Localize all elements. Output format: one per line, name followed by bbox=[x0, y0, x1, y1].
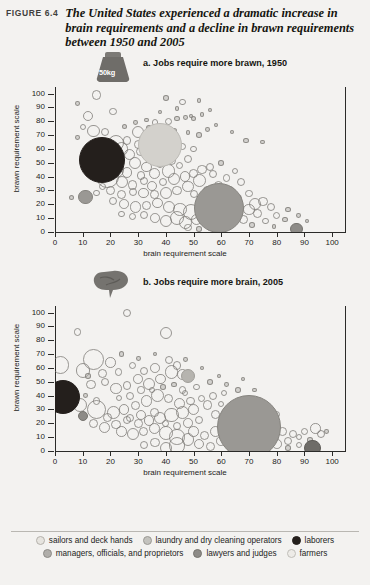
data-bubble bbox=[149, 168, 160, 179]
data-bubble bbox=[209, 170, 217, 178]
data-bubble bbox=[153, 352, 157, 356]
x-tick-label: 70 bbox=[238, 239, 260, 247]
x-tick-mark bbox=[110, 451, 111, 456]
data-bubble bbox=[245, 190, 252, 197]
data-bubble bbox=[98, 369, 107, 378]
data-bubble bbox=[55, 356, 69, 374]
data-bubble bbox=[160, 327, 172, 339]
weight-shape-icon bbox=[93, 50, 133, 82]
data-bubble bbox=[232, 168, 238, 174]
legend-divider bbox=[11, 531, 359, 532]
panel-b-title: b. Jobs require more brain, 2005 bbox=[143, 277, 283, 287]
circle-marker-icon bbox=[43, 549, 52, 558]
data-bubble bbox=[160, 215, 172, 227]
data-bubble bbox=[237, 178, 245, 186]
data-bubble bbox=[119, 351, 125, 357]
data-bubble bbox=[144, 118, 148, 122]
data-bubble bbox=[106, 186, 115, 195]
x-tick-mark bbox=[194, 451, 195, 456]
data-bubble bbox=[214, 123, 218, 127]
data-bubble bbox=[129, 188, 137, 196]
data-bubble bbox=[218, 160, 224, 166]
circle-marker-icon bbox=[287, 549, 296, 558]
highlight-bubble-managers-small bbox=[78, 190, 92, 204]
x-tick-label: 70 bbox=[238, 458, 260, 466]
x-tick-mark bbox=[110, 232, 111, 237]
data-bubble bbox=[182, 390, 188, 396]
data-bubble bbox=[282, 217, 288, 223]
data-bubble bbox=[137, 386, 144, 393]
data-bubble bbox=[193, 174, 206, 187]
y-tick-label: 80 bbox=[17, 336, 45, 344]
x-tick-mark bbox=[249, 232, 250, 237]
data-bubble bbox=[123, 381, 132, 390]
x-tick-label: 20 bbox=[99, 239, 121, 247]
x-tick-mark bbox=[249, 451, 250, 456]
y-tick-mark bbox=[48, 177, 54, 178]
y-tick-mark bbox=[48, 107, 54, 108]
y-tick-label: 50 bbox=[17, 159, 45, 167]
data-bubble bbox=[249, 222, 255, 228]
legend-row-2: managers, officials, and proprietorslawy… bbox=[0, 549, 370, 558]
data-bubble bbox=[116, 176, 128, 188]
x-tick-label: 90 bbox=[293, 458, 315, 466]
x-tick-label: 80 bbox=[266, 239, 288, 247]
x-tick-label: 10 bbox=[72, 458, 94, 466]
y-tick-mark bbox=[48, 354, 54, 355]
data-bubble bbox=[267, 203, 275, 211]
y-tick-mark bbox=[48, 423, 54, 424]
data-bubble bbox=[150, 363, 160, 373]
data-bubble bbox=[117, 190, 127, 200]
x-tick-mark bbox=[55, 451, 56, 456]
x-tick-label: 80 bbox=[266, 458, 288, 466]
data-bubble bbox=[116, 395, 122, 401]
y-tick-mark bbox=[48, 396, 54, 397]
data-bubble bbox=[183, 115, 188, 120]
y-tick-label: 10 bbox=[17, 214, 45, 222]
legend-row-1: sailors and deck handslaundry and dry cl… bbox=[0, 536, 370, 545]
data-bubble bbox=[85, 373, 91, 379]
x-tick-label: 0 bbox=[44, 239, 66, 247]
y-tick-mark bbox=[48, 451, 54, 452]
data-bubble bbox=[163, 95, 169, 101]
data-bubble bbox=[168, 173, 180, 185]
data-bubble bbox=[208, 108, 212, 112]
y-tick-label: 80 bbox=[17, 117, 45, 125]
y-tick-mark bbox=[48, 190, 54, 191]
highlight-bubble-lawyers-and-judges bbox=[304, 440, 321, 451]
x-tick-mark bbox=[221, 232, 222, 237]
y-tick-label: 20 bbox=[17, 419, 45, 427]
data-bubble bbox=[119, 199, 129, 209]
data-bubble bbox=[75, 135, 80, 140]
data-bubble bbox=[296, 213, 301, 218]
data-bubble bbox=[176, 162, 183, 169]
data-bubble bbox=[150, 408, 159, 417]
data-bubble bbox=[183, 418, 193, 428]
circle-marker-icon bbox=[36, 536, 45, 545]
data-bubble bbox=[164, 394, 174, 404]
panel-a-plot: brawn requirement scale brain requiremen… bbox=[0, 84, 370, 269]
y-tick-label: 30 bbox=[17, 405, 45, 413]
data-bubble bbox=[165, 356, 173, 364]
x-tick-mark bbox=[83, 232, 84, 237]
data-bubble bbox=[130, 201, 141, 212]
data-bubble bbox=[179, 99, 186, 106]
y-tick-mark bbox=[48, 163, 54, 164]
x-tick-mark bbox=[138, 232, 139, 237]
data-bubble bbox=[188, 426, 198, 436]
y-tick-label: 0 bbox=[17, 447, 45, 455]
y-tick-mark bbox=[48, 340, 54, 341]
x-tick-mark bbox=[221, 451, 222, 456]
x-tick-label: 100 bbox=[321, 458, 343, 466]
data-bubble bbox=[116, 426, 126, 436]
data-bubble bbox=[129, 362, 136, 369]
data-bubble bbox=[196, 226, 202, 232]
x-tick-label: 90 bbox=[293, 239, 315, 247]
data-bubble bbox=[105, 357, 115, 367]
data-bubble bbox=[99, 183, 106, 190]
y-tick-mark bbox=[48, 149, 54, 150]
data-bubble bbox=[133, 120, 138, 125]
data-bubble bbox=[119, 404, 129, 414]
data-bubble bbox=[99, 422, 110, 433]
data-bubble bbox=[126, 392, 134, 400]
